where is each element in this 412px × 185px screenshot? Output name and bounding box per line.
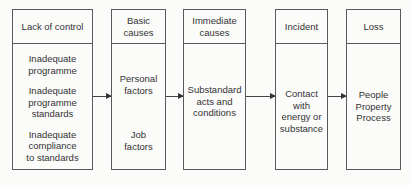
stage-item: Personal factors: [120, 73, 158, 96]
stage-item: Inadequate compliance to standards: [26, 129, 78, 164]
stage-item: Contact with energy or substance: [280, 88, 323, 134]
stage-loss: Loss People Property Process: [346, 9, 401, 170]
arrow-connector: [246, 96, 275, 97]
stage-item: People Property Process: [356, 89, 392, 124]
stage-incident: Incident Contact with energy or substanc…: [275, 9, 328, 170]
arrow-connector: [166, 96, 183, 97]
stage-lack-of-control: Lack of control Inadequate programme Ina…: [12, 9, 93, 170]
stage-title: Incident: [276, 10, 327, 44]
stage-immediate-causes: Immediate causes Substandard acts and co…: [183, 9, 246, 170]
stage-item: Inadequate programme: [28, 53, 77, 76]
stage-title: Lack of control: [13, 10, 92, 44]
stage-item: Job factors: [124, 129, 153, 152]
arrow-connector: [93, 96, 111, 97]
stage-item: Substandard acts and conditions: [188, 84, 242, 119]
stage-title: Basic causes: [112, 10, 165, 44]
stage-title: Immediate causes: [184, 10, 245, 44]
stage-item: Inadequate programme standards: [28, 85, 77, 120]
arrow-connector: [328, 96, 346, 97]
stage-title: Loss: [347, 10, 400, 44]
stage-basic-causes: Basic causes Personal factors Job factor…: [111, 9, 166, 170]
